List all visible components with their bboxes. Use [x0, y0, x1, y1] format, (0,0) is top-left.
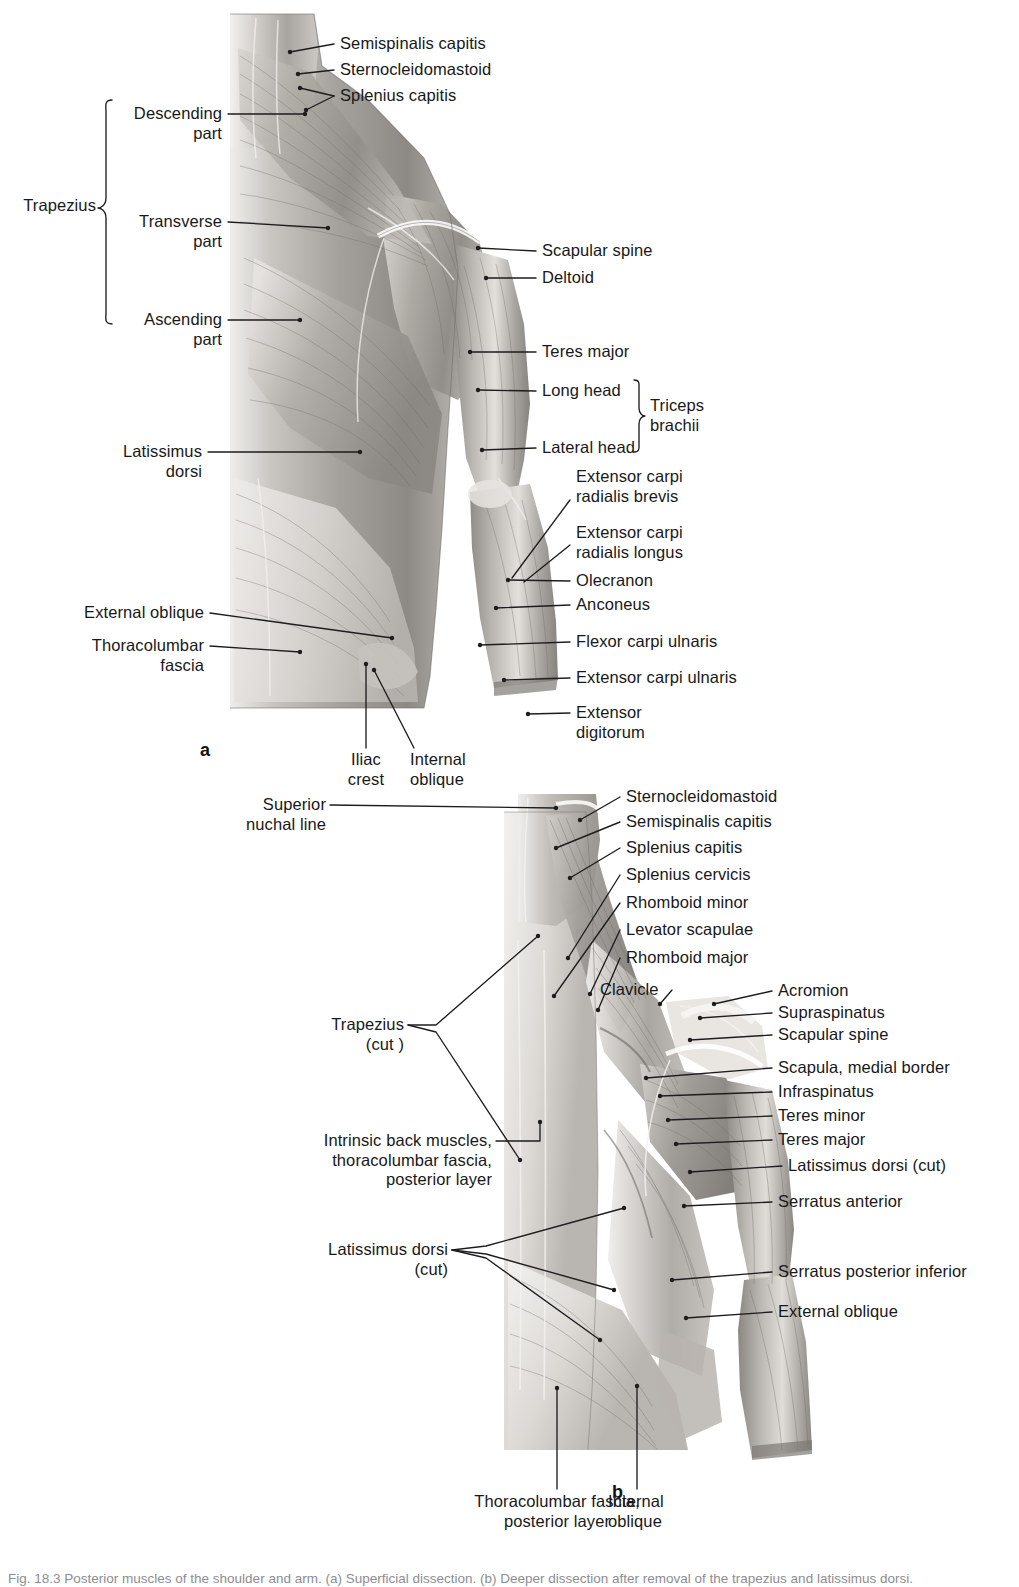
figure-caption: Fig. 18.3 Posterior muscles of the shoul…: [8, 1570, 1013, 1587]
label-semispinalis-capitis-b: Semispinalis capitis: [626, 812, 772, 832]
label-external-oblique-b: External oblique: [778, 1302, 898, 1322]
label-scapular-spine-b: Scapular spine: [778, 1025, 889, 1045]
label-acromion-b: Acromion: [778, 981, 849, 1001]
label-infraspinatus-b: Infraspinatus: [778, 1082, 874, 1102]
label-rhomboid-major-b: Rhomboid major: [626, 948, 748, 968]
label-splenius-capitis-b: Splenius capitis: [626, 838, 742, 858]
atlas-page: Semispinalis capitis Sternocleidomastoid…: [0, 0, 1019, 1587]
label-supraspinatus-b: Supraspinatus: [778, 1003, 885, 1023]
figure-b-leader-lines: [0, 0, 1019, 1587]
label-clavicle-b: Clavicle: [600, 980, 659, 1000]
label-teres-minor-b: Teres minor: [778, 1106, 865, 1126]
label-splenius-cervicis-b: Splenius cervicis: [626, 865, 751, 885]
label-latissimus-dorsi-cut-left-b: Latissimus dorsi (cut): [240, 1240, 448, 1279]
label-latissimus-dorsi-cut-right-b: Latissimus dorsi (cut): [788, 1156, 946, 1176]
label-trapezius-cut-b: Trapezius (cut ): [200, 1015, 404, 1054]
figure-b-letter: b: [612, 1482, 623, 1503]
label-intrinsic-back-muscles-b: Intrinsic back muscles, thoracolumbar fa…: [240, 1131, 492, 1190]
label-teres-major-b: Teres major: [778, 1130, 865, 1150]
label-rhomboid-minor-b: Rhomboid minor: [626, 893, 748, 913]
label-serratus-posterior-inferior-b: Serratus posterior inferior: [778, 1262, 967, 1282]
label-superior-nuchal-line-b: Superior nuchal line: [100, 795, 326, 834]
label-serratus-anterior-b: Serratus anterior: [778, 1192, 903, 1212]
label-sternocleidomastoid-b: Sternocleidomastoid: [626, 787, 777, 807]
label-levator-scapulae-b: Levator scapulae: [626, 920, 753, 940]
label-scapula-medial-border-b: Scapula, medial border: [778, 1058, 950, 1078]
